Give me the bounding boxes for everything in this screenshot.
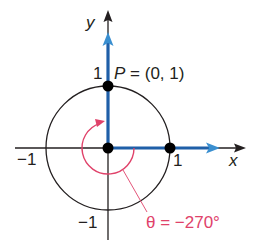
x-axis-label: x (228, 151, 238, 170)
angle-leader-line (123, 170, 147, 212)
angle-label: θ = −270° (146, 213, 220, 232)
point-p-label: P = (0, 1) (114, 64, 184, 83)
point-p (103, 81, 114, 92)
unit-circle-diagram: y x −1 1 1 −1 P = (0, 1) θ = −270° (0, 0, 254, 249)
y-tick-neg1: −1 (78, 213, 97, 232)
y-axis-label: y (85, 13, 96, 32)
x-tick-1: 1 (173, 151, 182, 170)
x-tick-neg1: −1 (17, 150, 36, 169)
initial-side-ray (108, 143, 220, 154)
y-tick-1: 1 (93, 64, 102, 83)
angle-arrow-icon (95, 119, 105, 127)
origin-point (103, 143, 114, 154)
